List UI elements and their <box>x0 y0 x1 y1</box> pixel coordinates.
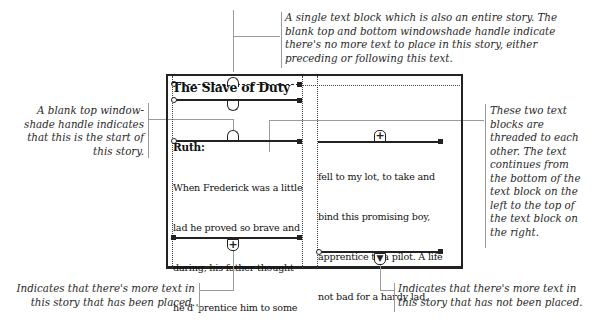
callout-top-bar <box>281 12 282 68</box>
title-block-top-right-handle[interactable] <box>297 82 302 87</box>
title-block-bottom-left-handle[interactable] <box>171 97 177 103</box>
callout-bottom-left: Indicates that there's more text in this… <box>0 282 195 309</box>
callout-left-bar <box>148 103 149 158</box>
right-block-bottom-right-handle[interactable] <box>438 249 443 254</box>
leader-line-bottom-left-vertical <box>233 251 234 290</box>
left-column-heading: Ruth: <box>173 141 205 154</box>
leader-line-bottom-right-horizontal <box>380 290 394 291</box>
callout-bottom-right-bar <box>394 283 395 312</box>
left-block-bottom-left-handle[interactable] <box>171 235 176 240</box>
leader-line-top-vertical <box>233 10 234 72</box>
callout-top: A single text block which is also an ent… <box>285 11 557 65</box>
callout-right-bar <box>485 104 486 248</box>
callout-left: A blank top window- shade handle indicat… <box>0 104 144 158</box>
left-block-top-windowshade-handle[interactable] <box>227 130 239 140</box>
right-block-bottom-windowshade-handle[interactable]: ▼ <box>374 253 386 265</box>
callout-bottom-right: Indicates that there's more text in this… <box>398 282 583 309</box>
leader-line-bottom-left-horizontal <box>200 290 234 291</box>
left-block-bottom-windowshade-handle[interactable]: + <box>227 239 239 251</box>
story-title: The Slave of Duty <box>172 80 290 95</box>
title-block-bottom-right-handle[interactable] <box>297 98 302 103</box>
margin-guide-top <box>302 85 462 86</box>
callout-bottom-left-bar <box>199 283 200 312</box>
leader-line-bottom-right-vertical <box>380 265 381 290</box>
left-block-bottom-right-handle[interactable] <box>297 235 302 240</box>
left-block-top-right-handle[interactable] <box>297 139 302 144</box>
right-block-bottom-left-handle[interactable] <box>316 249 322 255</box>
leader-line-top-horizontal <box>233 36 280 37</box>
callout-right: These two text blocks are threaded to ea… <box>490 104 581 239</box>
